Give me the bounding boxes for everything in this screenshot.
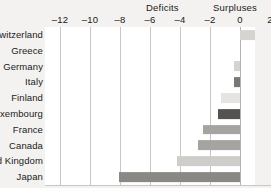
deficits-surpluses-chart: Deficits Surpluses –12–10–8–6–4–202 Swit… — [0, 0, 271, 188]
category-label-canada: Canada — [0, 140, 43, 151]
y-axis-category-labels: SwitzerlandGreeceGermanyItalyFinlandLuxe… — [0, 27, 43, 185]
category-label-france: France — [0, 124, 43, 135]
chart-row — [45, 138, 271, 154]
chart-row — [45, 74, 271, 90]
bar-luxembourg — [218, 109, 241, 119]
bar-canada — [198, 141, 240, 151]
category-label-luxembourg: Luxembourg — [0, 108, 43, 119]
plot-area — [45, 27, 271, 185]
bar-japan — [119, 172, 241, 182]
bar-united-kingdom — [177, 156, 240, 166]
chart-row — [45, 169, 271, 185]
x-tick-label-neg6: –6 — [145, 14, 156, 25]
chart-row — [45, 43, 271, 59]
category-label-greece: Greece — [0, 45, 43, 56]
category-label-italy: Italy — [0, 76, 43, 87]
chart-row — [45, 27, 271, 43]
x-tick-label-neg4: –4 — [175, 14, 186, 25]
x-tick-label-neg10: –10 — [82, 14, 98, 25]
x-tick-label-neg2: –2 — [205, 14, 216, 25]
category-label-japan: Japan — [0, 171, 43, 182]
surpluses-region-label: Surpluses — [213, 2, 257, 13]
chart-row — [45, 106, 271, 122]
category-label-finland: Finland — [0, 92, 43, 103]
chart-row — [45, 153, 271, 169]
bar-finland — [221, 93, 241, 103]
plot-bottom-rule — [45, 185, 271, 186]
category-label-switzerland: Switzerland — [0, 29, 43, 40]
category-label-germany: Germany — [0, 61, 43, 72]
deficits-region-label: Deficits — [146, 2, 179, 13]
x-axis-tick-labels: –12–10–8–6–4–202 — [0, 14, 271, 26]
x-tick-label-neg8: –8 — [115, 14, 126, 25]
chart-row — [45, 122, 271, 138]
chart-row — [45, 90, 271, 106]
x-tick-label-neg12: –12 — [52, 14, 68, 25]
category-label-united-kingdom: United Kingdom — [0, 155, 43, 166]
x-tick-label-2: 2 — [267, 14, 271, 25]
chart-row — [45, 59, 271, 75]
bar-germany — [234, 62, 240, 72]
x-tick-label-0: 0 — [237, 14, 242, 25]
bar-france — [203, 125, 241, 135]
plot-right-margin — [255, 27, 271, 185]
bar-italy — [234, 77, 240, 87]
